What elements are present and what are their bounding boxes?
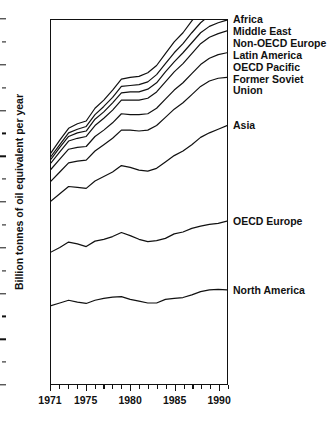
y-axis: Billion tonnes of oil equivalent per yea… <box>0 0 50 421</box>
x-tick-minor <box>201 385 202 389</box>
x-tick-minor <box>184 385 185 389</box>
x-tick-minor <box>192 385 193 389</box>
series-label-line: Non-OECD Europe <box>233 38 326 50</box>
x-tick-minor <box>68 385 69 389</box>
series-label: OECD Pacific <box>233 62 300 74</box>
series-label-line: OECD Pacific <box>233 62 300 74</box>
series-label-list: AfricaMiddle EastNon-OECD EuropeLatin Am… <box>233 0 331 421</box>
x-axis-tick-label: 1980 <box>118 394 141 406</box>
x-tick-major <box>50 385 51 391</box>
plot-area <box>50 19 228 385</box>
y-tick-minor <box>2 41 6 42</box>
series-label: North America <box>233 285 305 297</box>
y-tick-minor <box>2 133 6 134</box>
y-tick-minor <box>2 362 6 363</box>
x-tick-minor <box>148 385 149 389</box>
x-tick-minor <box>157 385 158 389</box>
series-label: Non-OECD Europe <box>233 38 326 50</box>
x-tick-minor <box>95 385 96 389</box>
series-line <box>51 20 227 157</box>
y-tick-minor <box>2 179 6 180</box>
chart-screenshot: { "chart_data": { "type": "area", "title… <box>0 0 331 421</box>
series-line <box>51 126 227 202</box>
y-tick-major <box>0 64 6 65</box>
series-label: Former SovietUnion <box>233 74 304 97</box>
y-tick-minor <box>2 270 6 271</box>
x-tick-major <box>175 385 176 391</box>
x-axis-tick-label: 1971 <box>38 394 61 406</box>
series-label: Latin America <box>233 50 302 62</box>
x-axis-tick-label: 1975 <box>74 394 97 406</box>
x-tick-minor <box>210 385 211 389</box>
series-label-line: Union <box>233 85 304 97</box>
series-line <box>51 53 227 169</box>
y-tick-major <box>0 339 6 340</box>
y-tick-minor <box>2 224 6 225</box>
series-label: Middle East <box>233 26 291 38</box>
series-line <box>51 221 227 252</box>
series-label-line: Middle East <box>233 26 291 38</box>
x-tick-minor <box>166 385 167 389</box>
series-label: Asia <box>233 120 255 132</box>
y-tick-minor <box>2 87 6 88</box>
series-label-line: Africa <box>233 14 263 26</box>
x-tick-minor <box>121 385 122 389</box>
series-label-line: Asia <box>233 120 255 132</box>
series-label: OECD Europe <box>233 216 302 228</box>
series-lines <box>51 20 227 384</box>
x-tick-major <box>130 385 131 391</box>
x-tick-minor <box>112 385 113 389</box>
y-tick-major <box>0 247 6 248</box>
y-tick-minor <box>2 316 6 317</box>
x-axis-tick-label: 1990 <box>207 394 230 406</box>
x-tick-minor <box>228 385 229 389</box>
x-tick-minor <box>77 385 78 389</box>
x-axis-tick-label: 1985 <box>163 394 186 406</box>
x-tick-major <box>86 385 87 391</box>
series-label-line: OECD Europe <box>233 216 302 228</box>
x-tick-major <box>219 385 220 391</box>
series-line <box>51 289 227 305</box>
y-tick-major <box>0 110 6 111</box>
series-label-line: Latin America <box>233 50 302 62</box>
x-tick-minor <box>103 385 104 389</box>
x-tick-minor <box>139 385 140 389</box>
y-tick-major <box>0 201 6 202</box>
y-tick-major <box>0 156 6 157</box>
x-tick-minor <box>59 385 60 389</box>
series-label-line: North America <box>233 285 305 297</box>
y-axis-title: Billion tonnes of oil equivalent per yea… <box>13 77 25 307</box>
series-line <box>51 31 227 163</box>
y-tick-major <box>0 18 6 19</box>
series-label: Africa <box>233 14 263 26</box>
y-tick-major <box>0 293 6 294</box>
